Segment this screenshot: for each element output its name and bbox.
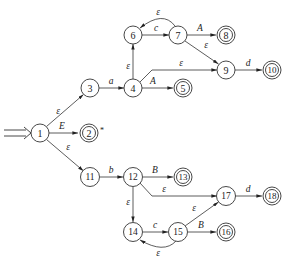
edge-17-18: d [235, 184, 262, 196]
state-label: 15 [173, 227, 183, 237]
state-label: 13 [179, 172, 189, 182]
state-6: 6 [124, 26, 142, 44]
state-12: 12 [124, 168, 143, 187]
edge-12-14: ε [126, 187, 133, 222]
state-label: 5 [181, 83, 186, 94]
edge-label: ε [204, 40, 208, 50]
state-label: 16 [222, 227, 232, 237]
edge-11-12: b [100, 165, 123, 177]
state-14: 14 [124, 223, 143, 242]
edge-7-8: A [187, 23, 216, 35]
state-16-accepting: 16 [217, 223, 235, 241]
edge-label: B [152, 165, 158, 175]
edge-label: ε [66, 142, 70, 152]
state-label: 2 [87, 128, 92, 139]
state-18-accepting: 18 [263, 187, 281, 205]
nfa-diagram: ε E ε a A ε ε c ε A ε d [0, 0, 293, 266]
state-9: 9 [217, 61, 235, 79]
edge-12-13: B [143, 165, 173, 177]
edge-label: ε [162, 184, 166, 194]
edge-1-2: E [49, 121, 78, 133]
edge-label: d [246, 58, 251, 68]
edge-label: ε [126, 197, 130, 207]
state-8-accepting: 8 [217, 26, 235, 44]
edge-7-9: ε [185, 40, 219, 64]
edge-label: ε [56, 106, 60, 116]
edge-label: A [149, 76, 156, 86]
edge-label: ε [126, 61, 130, 71]
state-17: 17 [217, 187, 236, 206]
edge-label: c [154, 23, 159, 33]
state-label: 8 [224, 30, 229, 41]
state-label: 4 [131, 83, 136, 94]
state-2-accepting: 2 * [80, 124, 104, 142]
edge-9-10: d [235, 58, 262, 70]
edge-label: ε [179, 58, 183, 68]
state-label: 12 [128, 172, 138, 182]
edge-label: ε [156, 248, 160, 258]
start-arrow-icon [4, 127, 31, 139]
state-label: 18 [268, 191, 278, 201]
edge-14-15: c [143, 220, 168, 232]
state-11: 11 [81, 168, 100, 187]
edge-label: ε [192, 203, 196, 213]
state-10-accepting: 10 [263, 61, 281, 79]
state-1: 1 [31, 124, 49, 142]
edge-15-16: B [188, 220, 216, 232]
edge-label: d [246, 184, 251, 194]
state-3: 3 [81, 79, 99, 97]
state-label: 10 [268, 65, 278, 75]
asterisk-note: * [100, 126, 104, 135]
edge-label: E [58, 121, 65, 131]
edge-label: ε [156, 7, 160, 17]
edge-label: c [153, 220, 158, 230]
edge-4-5: A [142, 76, 173, 88]
state-4: 4 [124, 79, 142, 97]
state-13-accepting: 13 [174, 168, 192, 186]
edge-1-3: ε [47, 95, 84, 127]
state-label: 14 [128, 227, 138, 237]
state-label: 7 [176, 30, 181, 41]
edge-label: A [196, 23, 203, 33]
state-label: 6 [131, 30, 136, 41]
state-5-accepting: 5 [174, 79, 192, 97]
state-label: 17 [221, 191, 231, 201]
edge-1-11: ε [47, 140, 84, 172]
state-label: 1 [38, 128, 43, 139]
state-label: 9 [224, 65, 229, 76]
state-label: 11 [85, 172, 94, 182]
state-label: 3 [88, 83, 93, 94]
edge-4-6: ε [126, 44, 133, 79]
edge-label: b [109, 165, 114, 175]
edge-15-14: ε [140, 240, 176, 258]
edge-label: a [109, 76, 114, 86]
edge-3-4: a [99, 76, 124, 88]
edge-6-7: c [142, 23, 169, 35]
state-7: 7 [169, 26, 187, 44]
state-15: 15 [169, 223, 188, 242]
edge-label: B [198, 220, 204, 230]
